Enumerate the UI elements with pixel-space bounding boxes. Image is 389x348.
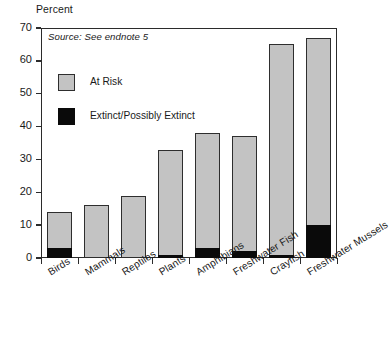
x-axis-label: Birds: [46, 255, 72, 277]
bar-segment-at-risk: [195, 133, 220, 258]
y-axis-tick-label: 10: [20, 218, 32, 230]
y-axis-title: Percent: [36, 3, 73, 15]
y-axis-tick-label: 40: [20, 119, 32, 131]
bar-group: [121, 196, 146, 258]
legend-label-at-risk: At Risk: [90, 76, 122, 87]
x-axis-tick-mark: [41, 258, 42, 264]
bar-group: [84, 205, 109, 258]
bar-segment-extinct: [47, 248, 72, 258]
y-axis-tick-label: 50: [20, 86, 32, 98]
y-axis-tick-label: 30: [20, 152, 32, 164]
bar-segment-at-risk: [269, 44, 294, 258]
bar-group: [47, 212, 72, 258]
bar-group: [195, 133, 220, 258]
black-swatch-icon: [58, 108, 75, 125]
bar-group: [269, 44, 294, 258]
y-axis-tick-label: 70: [20, 21, 32, 33]
bars-layer: [41, 28, 337, 258]
bar-group: [232, 136, 257, 258]
x-axis-tick-mark: [78, 258, 79, 264]
y-axis-tick-label: 0: [26, 251, 32, 263]
bar-group: [306, 38, 331, 258]
x-axis-tick-mark: [189, 258, 190, 264]
bar-segment-at-risk: [232, 136, 257, 258]
y-axis-tick-label: 20: [20, 185, 32, 197]
bar-segment-at-risk: [158, 150, 183, 258]
gray-swatch-icon: [58, 74, 75, 91]
bar-segment-at-risk: [84, 205, 109, 258]
bar-group: [158, 150, 183, 258]
legend-label-extinct: Extinct/Possibly Extinct: [90, 110, 195, 121]
y-axis-tick-label: 60: [20, 53, 32, 65]
bar-segment-at-risk: [121, 196, 146, 258]
